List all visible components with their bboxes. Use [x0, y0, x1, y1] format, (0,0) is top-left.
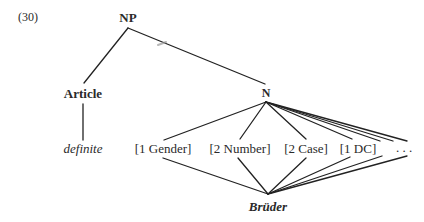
- leaf-bruder: Brüder: [249, 200, 287, 213]
- print-smudge: [158, 42, 166, 45]
- feature-dc: [1 DC]: [340, 142, 376, 155]
- tree-edges: [83, 28, 407, 194]
- tree-edge: [240, 102, 266, 139]
- syntax-tree-edges: [0, 0, 424, 222]
- node-article: Article: [64, 87, 102, 100]
- node-np: NP: [119, 11, 136, 24]
- feature-gender: [1 Gender]: [135, 142, 192, 155]
- feature-number: [2 Number]: [209, 142, 270, 155]
- feature-case: [2 Case]: [284, 142, 328, 155]
- tree-edge: [266, 102, 352, 139]
- tree-edge: [164, 102, 266, 140]
- tree-edge: [84, 28, 128, 83]
- example-number: (30): [18, 11, 38, 23]
- tree-edge: [128, 28, 265, 84]
- leaf-definite: definite: [64, 142, 103, 155]
- tree-edge: [268, 156, 382, 194]
- node-n: N: [262, 87, 271, 99]
- feature-ellipsis: . . .: [396, 141, 412, 154]
